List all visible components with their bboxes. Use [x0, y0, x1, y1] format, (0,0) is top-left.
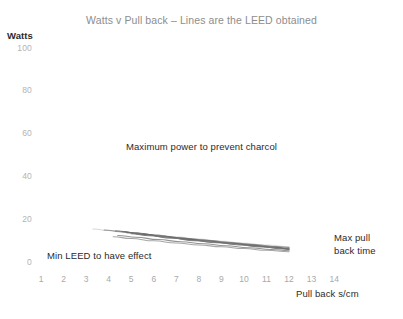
series-line	[118, 235, 289, 250]
x-axis-label: Pull back s/cm	[296, 288, 359, 299]
annotation-max-power: Maximum power to prevent charcol	[0, 141, 403, 152]
plot-lines	[0, 0, 403, 319]
annotation-max-pull-line2: back time	[334, 245, 376, 258]
chart-container: Watts v Pull back – Lines are the LEED o…	[0, 0, 403, 319]
annotation-max-pull: Max pull back time	[334, 232, 376, 257]
annotation-min-leed: Min LEED to have effect	[47, 250, 152, 261]
page-bottom-artifact	[6, 309, 256, 318]
annotation-max-pull-line1: Max pull	[334, 232, 376, 245]
